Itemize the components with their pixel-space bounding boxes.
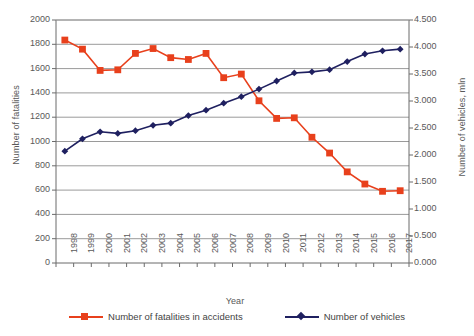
data-point [309, 68, 316, 75]
data-point [97, 67, 104, 74]
data-point [61, 37, 68, 44]
data-point [220, 74, 227, 81]
data-point [150, 45, 157, 52]
legend-swatch-fatalities-icon [69, 312, 103, 322]
data-point [238, 71, 245, 78]
data-point [256, 97, 263, 104]
data-point [273, 115, 280, 122]
data-point [185, 112, 192, 119]
data-point [326, 66, 333, 73]
data-point [291, 70, 298, 77]
series-line [65, 49, 400, 151]
data-point [344, 168, 351, 175]
legend-item-fatalities: Number of fatalities in accidents [69, 311, 243, 322]
data-point [220, 100, 227, 107]
data-point [309, 134, 316, 141]
legend-swatch-vehicles-icon [285, 312, 319, 322]
data-point [379, 47, 386, 54]
series-fatalities [61, 37, 403, 195]
data-point [114, 66, 121, 73]
data-point [379, 188, 386, 195]
chart-legend: Number of fatalities in accidents Number… [0, 311, 474, 322]
data-point [79, 46, 86, 53]
plot-area [0, 0, 474, 336]
data-point [397, 187, 404, 194]
series-vehicles [61, 46, 403, 155]
data-point [150, 122, 157, 129]
data-point [185, 56, 192, 63]
data-point [114, 130, 121, 137]
data-point [326, 150, 333, 157]
data-point [167, 120, 174, 127]
legend-label-vehicles: Number of vehicles [324, 311, 405, 322]
data-point [273, 78, 280, 85]
data-point [132, 50, 139, 57]
data-point [361, 181, 368, 188]
data-point [97, 128, 104, 135]
data-point [238, 93, 245, 100]
data-point [344, 58, 351, 65]
data-point [203, 50, 210, 57]
data-point [203, 107, 210, 114]
legend-item-vehicles: Number of vehicles [285, 311, 405, 322]
legend-label-fatalities: Number of fatalities in accidents [108, 311, 243, 322]
data-point [256, 86, 263, 93]
chart-container: Number of fatalities Number of vehicles,… [0, 0, 474, 336]
data-point [167, 54, 174, 61]
data-point [361, 51, 368, 58]
data-point [397, 46, 404, 53]
data-point [132, 127, 139, 134]
data-point [291, 114, 298, 121]
